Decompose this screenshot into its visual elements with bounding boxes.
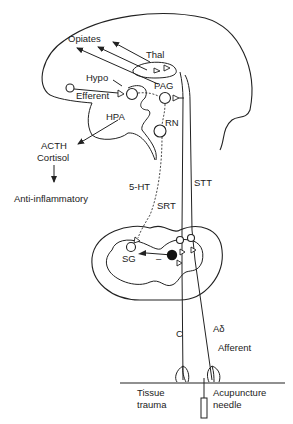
thal-synapse-2 [164, 65, 170, 71]
stt-origin-neuron [188, 235, 195, 242]
label-needle: needle [213, 399, 242, 410]
needle-handle [201, 398, 207, 418]
opiate-arrow-1 [113, 42, 150, 62]
efferent-origin [66, 84, 74, 92]
grey-matter [106, 239, 202, 285]
label-tissue: Tissue [137, 387, 165, 398]
c-fiber-ending [176, 366, 189, 382]
hypo-pointer [113, 80, 122, 86]
label-anti-inflammatory: Anti-inflammatory [14, 193, 88, 204]
c-to-projection-synapse [177, 260, 182, 266]
hypo-pag-dashed [138, 93, 160, 97]
adelta-fiber-ending [207, 366, 219, 382]
label-a-delta: Aδ [213, 323, 225, 334]
label-pag: PAG [154, 80, 173, 91]
projection-neuron [167, 250, 177, 260]
thal-synapse-1 [154, 68, 160, 73]
label-acth: ACTH [41, 140, 67, 151]
label-rn: RN [165, 117, 179, 128]
sg-neuron [127, 243, 136, 252]
label-cortisol: Cortisol [37, 152, 69, 163]
efferent-synapse [118, 90, 124, 97]
pag-nucleus [160, 93, 171, 104]
label-afferent: Afferent [218, 342, 251, 353]
hpa-arrow [78, 120, 118, 144]
label-opiates: Opiates [68, 33, 101, 44]
label-hypo: Hypo [86, 72, 108, 83]
label-efferent: Efferent [76, 90, 109, 101]
label-hpa: HPA [106, 111, 125, 122]
label-trauma: trauma [137, 399, 167, 410]
sg-inhibitory-synapse [138, 250, 146, 256]
opiate-arrow-2 [98, 47, 147, 70]
label-5ht: 5-HT [129, 181, 150, 192]
label-thal: Thal [146, 49, 164, 60]
label-c-fiber: C [176, 328, 183, 339]
label-srt: SRT [157, 200, 176, 211]
label-stt: STT [194, 177, 212, 188]
label-acupuncture: Acupuncture [213, 387, 266, 398]
c-fiber-synapse [180, 249, 185, 255]
hypo-nucleus [127, 89, 138, 100]
pag-synapse [173, 95, 179, 101]
label-minus: – [156, 253, 162, 264]
srt-origin-neuron [177, 237, 184, 244]
label-sg: SG [122, 253, 136, 264]
pain-pathway-diagram: Opiates Thal Hypo PAG Efferent HPA RN AC… [0, 0, 293, 424]
